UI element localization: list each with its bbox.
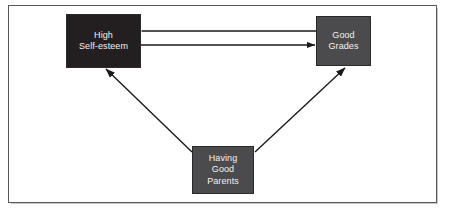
diagram-canvas: High Self-esteem Good Grades Having Good… — [0, 0, 452, 213]
arrow-parents-to-grades — [255, 68, 345, 152]
node-good-grades: Good Grades — [316, 16, 371, 66]
arrow-parents-to-self-esteem — [106, 69, 192, 152]
node-high-self-esteem: High Self-esteem — [66, 14, 141, 68]
node-high-self-esteem-label: High Self-esteem — [79, 30, 128, 53]
node-having-good-parents: Having Good Parents — [192, 146, 254, 194]
node-having-good-parents-label: Having Good Parents — [207, 153, 239, 188]
node-good-grades-label: Good Grades — [328, 30, 358, 53]
